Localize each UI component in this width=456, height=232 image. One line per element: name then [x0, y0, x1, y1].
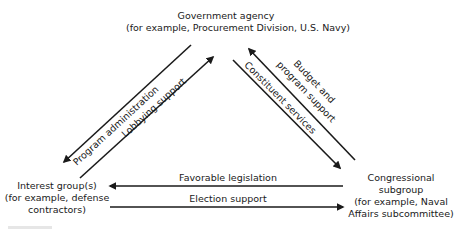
cutoff-caption: [8, 226, 52, 229]
label-election-support: Election support: [189, 193, 267, 204]
label-program-administration: Program administration: [71, 83, 161, 167]
arrow-program-administration: [64, 45, 191, 162]
label-favorable-legislation: Favorable legislation: [179, 172, 277, 183]
